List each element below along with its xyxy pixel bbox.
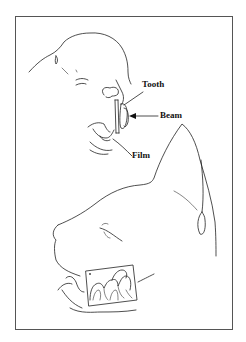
top-cat-head [29, 33, 131, 154]
tooth-leader-line [124, 92, 143, 105]
film-leader-line [113, 139, 132, 156]
film-label: Film [132, 151, 150, 160]
beam-label: Beam [160, 111, 182, 120]
beam-arrowhead-icon [129, 113, 136, 119]
dental-film [86, 265, 137, 306]
cat-dental-illustration [0, 0, 246, 342]
tooth-label: Tooth [142, 80, 164, 89]
